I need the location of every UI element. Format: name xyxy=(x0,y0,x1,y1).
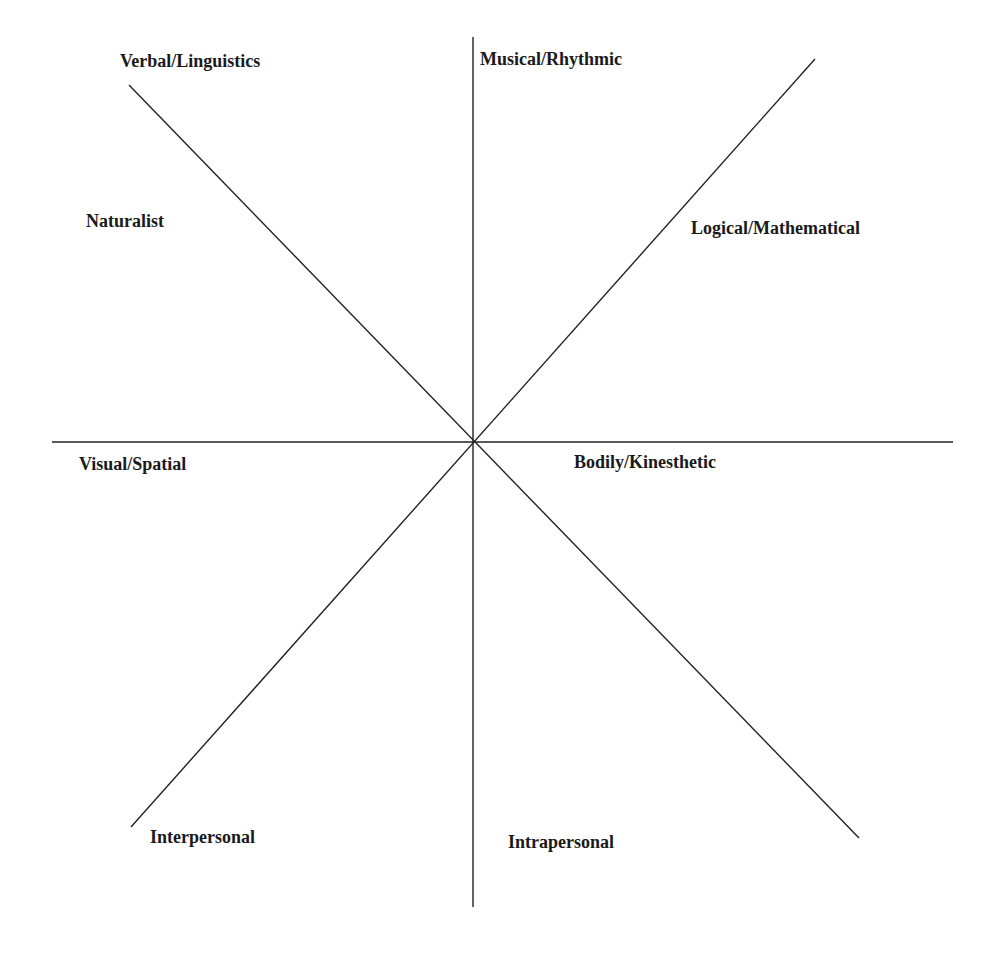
label-verbal-linguistics: Verbal/Linguistics xyxy=(120,52,260,70)
label-musical-rhythmic: Musical/Rhythmic xyxy=(480,50,622,68)
label-logical-mathematical: Logical/Mathematical xyxy=(691,219,860,237)
label-bodily-kinesthetic: Bodily/Kinesthetic xyxy=(574,453,716,471)
axis-lines xyxy=(0,0,1006,963)
intelligences-diagram: Verbal/Linguistics Musical/Rhythmic Natu… xyxy=(0,0,1006,963)
diagonal-line-tl-br xyxy=(129,85,859,838)
label-visual-spatial: Visual/Spatial xyxy=(79,455,186,473)
label-naturalist: Naturalist xyxy=(86,212,164,230)
label-intrapersonal: Intrapersonal xyxy=(508,833,614,851)
label-interpersonal: Interpersonal xyxy=(150,828,255,846)
